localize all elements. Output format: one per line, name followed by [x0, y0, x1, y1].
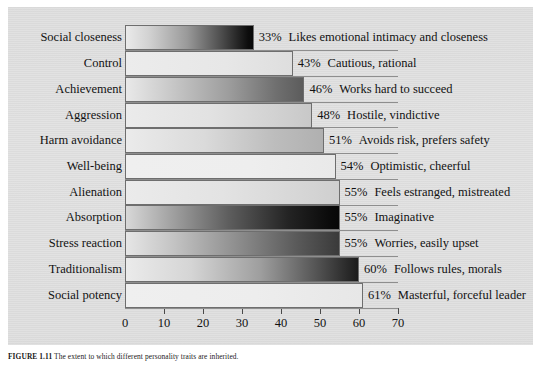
x-tick	[281, 309, 282, 314]
bar-value: 51%	[329, 133, 352, 148]
figure-panel: Social closenessControlAchievementAggres…	[8, 7, 533, 345]
x-tick-label: 70	[392, 316, 405, 331]
category-label: Traditionalism	[14, 257, 122, 282]
bar	[125, 180, 340, 205]
bar-description: Feels estranged, mistreated	[374, 185, 510, 200]
bar	[125, 77, 304, 102]
category-label: Stress reaction	[14, 231, 122, 256]
bar-value: 48%	[317, 108, 340, 123]
x-tick-label: 40	[275, 316, 288, 331]
bar-label: 54%Optimistic, cheerful	[341, 154, 471, 179]
bar	[125, 205, 340, 230]
bar-label: 55%Feels estranged, mistreated	[345, 180, 511, 205]
category-label: Alienation	[14, 180, 122, 205]
bar-label: 51%Avoids risk, prefers safety	[329, 128, 490, 153]
bar	[125, 51, 293, 76]
bar-description: Likes emotional intimacy and closeness	[289, 30, 488, 45]
bar-description: Masterful, forceful leader	[398, 288, 526, 303]
x-tick-label: 10	[158, 316, 171, 331]
bar-value: 60%	[364, 262, 387, 277]
x-tick	[398, 309, 399, 314]
category-label: Harm avoidance	[14, 128, 122, 153]
bar	[125, 257, 359, 282]
bar-value: 55%	[345, 185, 368, 200]
bar-value: 54%	[341, 159, 364, 174]
bar	[125, 154, 336, 179]
row-separator	[125, 308, 398, 309]
x-tick-label: 0	[122, 316, 128, 331]
bar-description: Worries, easily upset	[374, 236, 478, 251]
bar-label: 48%Hostile, vindictive	[317, 103, 439, 128]
x-tick	[359, 309, 360, 314]
bar	[125, 231, 340, 256]
bar	[125, 283, 363, 308]
x-tick-label: 20	[197, 316, 210, 331]
x-tick	[242, 309, 243, 314]
figure-caption: FIGURE 1.11 The extent to which differen…	[8, 352, 533, 361]
category-label: Control	[14, 51, 122, 76]
category-label: Social closeness	[14, 25, 122, 50]
bar-label: 61%Masterful, forceful leader	[368, 283, 526, 308]
bar-description: Works hard to succeed	[339, 82, 452, 97]
bar-description: Follows rules, morals	[394, 262, 502, 277]
bar-label: 46%Works hard to succeed	[309, 77, 452, 102]
x-tick-label: 50	[314, 316, 327, 331]
bar-chart-plot-area: 33%Likes emotional intimacy and closenes…	[125, 25, 398, 308]
bar	[125, 128, 324, 153]
bar-value: 33%	[259, 30, 282, 45]
x-tick	[320, 309, 321, 314]
bar-value: 55%	[345, 210, 368, 225]
category-label: Aggression	[14, 103, 122, 128]
bar-description: Optimistic, cheerful	[371, 159, 471, 174]
category-label: Absorption	[14, 205, 122, 230]
bar-description: Hostile, vindictive	[347, 108, 439, 123]
bar-description: Avoids risk, prefers safety	[359, 133, 490, 148]
x-tick	[203, 309, 204, 314]
category-label: Social potency	[14, 283, 122, 308]
category-label: Well-being	[14, 154, 122, 179]
x-tick-label: 30	[236, 316, 249, 331]
category-axis-labels: Social closenessControlAchievementAggres…	[8, 25, 122, 308]
bar-value: 61%	[368, 288, 391, 303]
bar-description: Imaginative	[374, 210, 434, 225]
bar	[125, 103, 312, 128]
bar	[125, 25, 254, 50]
x-tick-label: 60	[353, 316, 366, 331]
bar-value: 46%	[309, 82, 332, 97]
figure-caption-text: The extent to which different personalit…	[54, 352, 239, 361]
bar-label: 55%Imaginative	[345, 205, 435, 230]
bar-value: 55%	[345, 236, 368, 251]
category-label: Achievement	[14, 77, 122, 102]
x-tick	[164, 309, 165, 314]
bar-value: 43%	[298, 56, 321, 71]
bar-description: Cautious, rational	[328, 56, 417, 71]
figure-number: FIGURE 1.11	[8, 352, 52, 361]
bar-label: 60%Follows rules, morals	[364, 257, 502, 282]
bar-label: 33%Likes emotional intimacy and closenes…	[259, 25, 488, 50]
bar-label: 43%Cautious, rational	[298, 51, 417, 76]
bar-label: 55%Worries, easily upset	[345, 231, 479, 256]
